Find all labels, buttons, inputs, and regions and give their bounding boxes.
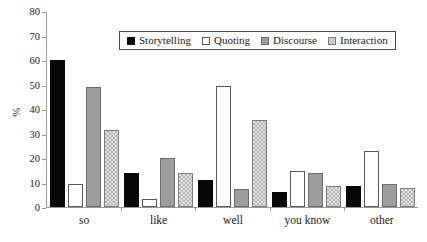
- legend-label: Storytelling: [139, 35, 191, 46]
- x-axis-tick-label: other: [345, 214, 419, 226]
- legend-item-discourse[interactable]: Discourse: [261, 35, 317, 46]
- y-axis-tick-label: 50: [6, 80, 40, 91]
- bar-quoting[interactable]: [68, 184, 83, 207]
- bar-discourse[interactable]: [308, 173, 323, 207]
- bar-storytelling[interactable]: [272, 192, 287, 207]
- x-axis-tick-label: well: [196, 214, 270, 226]
- legend-item-storytelling[interactable]: Storytelling: [127, 35, 191, 46]
- x-axis-category-separator: [270, 207, 271, 211]
- legend-swatch-interaction-icon: [328, 37, 336, 45]
- x-axis-line: [46, 207, 418, 208]
- legend-swatch-storytelling-icon: [127, 37, 135, 45]
- y-axis-tick-mark: [42, 184, 46, 185]
- x-axis-tick-label: like: [121, 214, 195, 226]
- bar-storytelling[interactable]: [198, 180, 213, 207]
- y-axis-tick-label: 40: [6, 105, 40, 116]
- legend-item-quoting[interactable]: Quoting: [202, 35, 250, 46]
- legend-label: Discourse: [273, 35, 317, 46]
- chart-legend: StorytellingQuotingDiscourseInteraction: [119, 31, 396, 50]
- bar-quoting[interactable]: [290, 171, 305, 207]
- bar-storytelling[interactable]: [124, 173, 139, 207]
- y-axis-tick-label: 20: [6, 154, 40, 165]
- y-axis-tick-mark: [42, 159, 46, 160]
- legend-label: Quoting: [214, 35, 250, 46]
- bar-interaction[interactable]: [178, 173, 193, 207]
- legend-swatch-discourse-icon: [261, 37, 269, 45]
- x-axis-tick-label: you know: [270, 214, 344, 226]
- bar-group-so: [47, 12, 121, 207]
- bar-interaction[interactable]: [400, 188, 415, 207]
- y-axis-tick-mark: [42, 12, 46, 13]
- bar-interaction[interactable]: [104, 130, 119, 207]
- legend-swatch-quoting-icon: [202, 37, 210, 45]
- y-axis-tick-label: 80: [6, 7, 40, 18]
- x-axis-category-separator: [121, 207, 122, 211]
- y-axis-tick-mark: [42, 61, 46, 62]
- y-axis-tick-label: 60: [6, 56, 40, 67]
- y-axis-tick-mark: [42, 110, 46, 111]
- y-axis-tick-mark: [42, 86, 46, 87]
- y-axis-tick-label: 10: [6, 178, 40, 189]
- y-axis-tick-mark: [42, 37, 46, 38]
- y-axis-tick-label: 30: [6, 129, 40, 140]
- x-axis-labels: solikewellyou knowother: [47, 214, 419, 226]
- x-axis-category-separator: [195, 207, 196, 211]
- bar-interaction[interactable]: [326, 186, 341, 207]
- y-axis-tick-mark: [42, 135, 46, 136]
- bar-storytelling[interactable]: [50, 60, 65, 207]
- legend-item-interaction[interactable]: Interaction: [328, 35, 388, 46]
- bar-discourse[interactable]: [382, 184, 397, 207]
- bar-discourse[interactable]: [160, 158, 175, 207]
- bar-quoting[interactable]: [216, 86, 231, 207]
- y-axis-tick-label: 70: [6, 31, 40, 42]
- bar-discourse[interactable]: [86, 87, 101, 207]
- bar-discourse[interactable]: [234, 189, 249, 207]
- y-axis-tick-label: 0: [6, 203, 40, 214]
- y-axis-tick-mark: [42, 208, 46, 209]
- legend-label: Interaction: [340, 35, 388, 46]
- x-axis-category-separator: [344, 207, 345, 211]
- bar-chart: % 80706050403020100 solikewellyou knowot…: [0, 0, 427, 242]
- bar-quoting[interactable]: [364, 151, 379, 207]
- bar-quoting[interactable]: [142, 199, 157, 207]
- bar-storytelling[interactable]: [346, 186, 361, 207]
- bar-interaction[interactable]: [252, 120, 267, 207]
- x-axis-tick-label: so: [47, 214, 121, 226]
